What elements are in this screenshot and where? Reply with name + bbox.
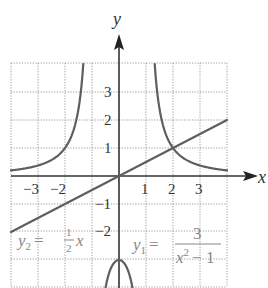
x-tick-label: 2 xyxy=(168,181,176,197)
graph: x y −3 −2 1 2 3 3 2 1 −1 −2 y2= 1 2 x y1… xyxy=(0,0,268,288)
y-tick-label: 3 xyxy=(104,84,112,100)
x-tick-label: −2 xyxy=(50,181,66,197)
y1-curve-left-branch xyxy=(11,64,83,170)
x-tick-label: 3 xyxy=(195,181,203,197)
y-tick-label: 1 xyxy=(104,140,112,156)
x-tick-label: 1 xyxy=(141,181,149,197)
x-tick-label: −3 xyxy=(23,181,39,197)
svg-text:x: x xyxy=(75,231,84,250)
y-tick-label: −1 xyxy=(95,196,111,212)
y1-equation-label: y1= 3 x2− 1 xyxy=(131,224,221,267)
y-tick-label: 2 xyxy=(104,112,112,128)
y-axis-label: y xyxy=(111,9,121,29)
svg-text:y1=: y1= xyxy=(131,235,159,256)
y1-curve-right-branch xyxy=(155,64,227,170)
y2-equation-label: y2= 1 2 x xyxy=(16,226,84,254)
svg-text:2: 2 xyxy=(66,242,72,254)
svg-text:3: 3 xyxy=(193,224,202,243)
svg-text:y2=: y2= xyxy=(16,231,44,252)
y-tick-label: −2 xyxy=(95,223,111,239)
x-axis-label: x xyxy=(257,167,266,187)
svg-text:x2− 1: x2− 1 xyxy=(175,246,214,267)
svg-text:1: 1 xyxy=(66,226,72,238)
